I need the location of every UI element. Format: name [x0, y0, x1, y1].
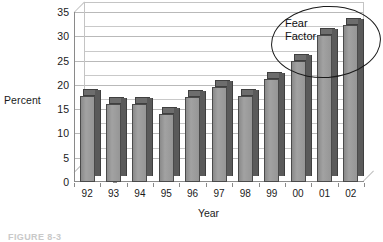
y-tick-label-30: 30 [43, 31, 69, 41]
bar-side-00 [306, 55, 312, 176]
bar-front-98 [238, 96, 253, 182]
bar-front-93 [106, 104, 121, 182]
bar-side-93 [121, 98, 127, 176]
bar-97[interactable] [212, 80, 227, 182]
bar-front-99 [264, 79, 279, 182]
bar-94[interactable] [132, 97, 147, 182]
bar-side-96 [200, 91, 206, 176]
x-tick-mark-5 [206, 183, 207, 187]
bar-front-94 [132, 104, 147, 182]
bar-front-95 [159, 114, 174, 182]
x-tick-mark-7 [259, 183, 260, 187]
y-tick-label-5: 5 [43, 153, 69, 163]
x-tick-mark-0 [74, 183, 75, 187]
bar-side-98 [253, 90, 259, 176]
x-tick-label-94: 94 [127, 188, 153, 199]
bar-front-02 [343, 25, 358, 182]
x-tick-mark-8 [285, 183, 286, 187]
bar-92[interactable] [80, 89, 95, 182]
fear-factor-label-line1: Fear [285, 17, 316, 30]
x-tick-label-96: 96 [179, 188, 205, 199]
x-tick-mark-1 [100, 183, 101, 187]
y-tick-label-15: 15 [43, 104, 69, 114]
y-tick-label-0: 0 [43, 177, 69, 187]
y-tick-mark-0 [113, 182, 117, 183]
x-tick-label-00: 00 [285, 188, 311, 199]
x-tick-mark-2 [127, 183, 128, 187]
bar-front-97 [212, 87, 227, 182]
x-axis-title: Year [0, 207, 383, 219]
y-tick-label-35: 35 [43, 7, 69, 17]
fear-factor-label: Fear Factor [285, 17, 316, 43]
bar-series [74, 12, 364, 182]
x-tick-mark-4 [179, 183, 180, 187]
bar-front-00 [291, 61, 306, 182]
bar-95[interactable] [159, 107, 174, 182]
fear-factor-label-line2: Factor [285, 30, 316, 43]
y-tick-label-10: 10 [43, 128, 69, 138]
y-tick-label-20: 20 [43, 80, 69, 90]
y-axis-title: Percent [4, 94, 41, 106]
bar-99[interactable] [264, 72, 279, 182]
x-axis-title-text: Year [198, 207, 219, 219]
bar-side-02 [358, 19, 364, 176]
x-tick-label-97: 97 [206, 188, 232, 199]
bar-side-99 [279, 73, 285, 176]
y-tick-label-25: 25 [43, 56, 69, 66]
axis-depth-bottom-right [363, 171, 374, 182]
x-tick-mark-3 [153, 183, 154, 187]
bar-93[interactable] [106, 97, 121, 182]
bar-02[interactable] [343, 18, 358, 182]
bar-00[interactable] [291, 54, 306, 182]
bar-chart: Percent 35302520151050 92939495969798990… [0, 0, 383, 225]
bar-01[interactable] [317, 28, 332, 182]
x-tick-mark-end [364, 183, 365, 187]
figure-root: Percent 35302520151050 92939495969798990… [0, 0, 383, 242]
bar-front-01 [317, 35, 332, 182]
bar-side-92 [95, 90, 101, 176]
x-tick-label-95: 95 [153, 188, 179, 199]
x-tick-mark-9 [311, 183, 312, 187]
bar-96[interactable] [185, 90, 200, 182]
bar-front-92 [80, 96, 95, 182]
x-tick-label-93: 93 [100, 188, 126, 199]
x-axis-ticks: 9293949596979899000102 [74, 188, 364, 204]
x-tick-label-01: 01 [311, 188, 337, 199]
x-tick-label-92: 92 [74, 188, 100, 199]
x-tick-mark-6 [232, 183, 233, 187]
bar-side-01 [332, 29, 338, 176]
bar-side-97 [227, 81, 233, 176]
bar-front-96 [185, 97, 200, 182]
x-tick-label-98: 98 [232, 188, 258, 199]
axis-back-top [84, 2, 364, 3]
bar-side-95 [174, 108, 180, 176]
x-tick-label-02: 02 [338, 188, 364, 199]
figure-caption: FIGURE 8-3 [8, 232, 62, 242]
bar-98[interactable] [238, 89, 253, 182]
x-tick-mark-10 [338, 183, 339, 187]
plot-area [74, 12, 364, 182]
y-axis-ticks: 35302520151050 [43, 0, 69, 225]
x-tick-label-99: 99 [259, 188, 285, 199]
bar-side-94 [147, 98, 153, 176]
